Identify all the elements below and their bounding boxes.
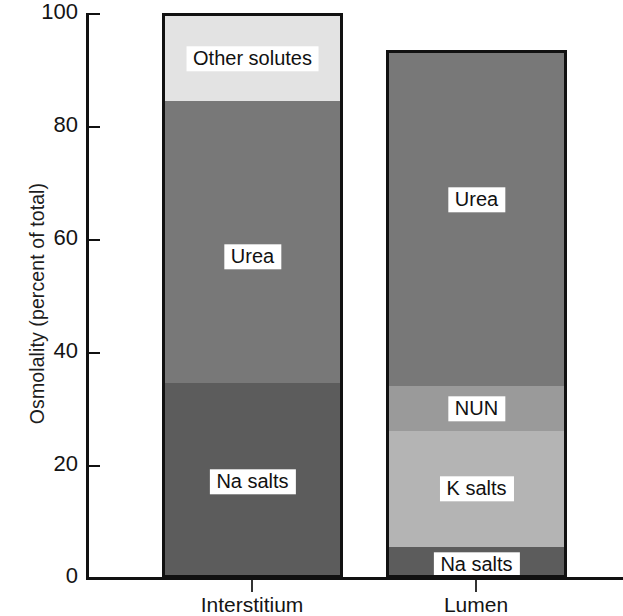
segment-label-urea-lumen: Urea	[448, 187, 505, 212]
bar-interstitium[interactable]: Other solutes Urea Na salts	[162, 13, 343, 578]
x-axis-label-lumen: Lumen	[376, 594, 576, 615]
segment-na-salts-interstitium[interactable]: Na salts	[165, 383, 340, 578]
y-tick-label-0: 0	[22, 565, 78, 587]
x-axis-label-interstitium: Interstitium	[152, 594, 352, 615]
y-tick-label-80: 80	[22, 114, 78, 136]
segment-label-other-solutes: Other solutes	[186, 46, 319, 71]
y-tick-20	[89, 465, 100, 467]
x-tick-interstitium	[251, 580, 253, 592]
segment-nun[interactable]: NUN	[389, 386, 564, 431]
y-axis-line	[86, 13, 89, 579]
segment-k-salts[interactable]: K salts	[389, 431, 564, 547]
segment-label-urea-interstitium: Urea	[224, 244, 281, 269]
y-tick-label-20: 20	[22, 453, 78, 475]
y-tick-label-100: 100	[22, 1, 78, 23]
segment-label-na-salts-lumen: Na salts	[433, 552, 519, 577]
y-tick-80	[89, 126, 100, 128]
bar-lumen[interactable]: Urea NUN K salts Na salts	[386, 50, 567, 578]
segment-label-na-salts-interstitium: Na salts	[209, 469, 295, 494]
x-tick-lumen	[475, 580, 477, 592]
segment-label-k-salts: K salts	[439, 476, 513, 501]
segment-na-salts-lumen[interactable]: Na salts	[389, 547, 564, 578]
segment-urea-interstitium[interactable]: Urea	[165, 101, 340, 383]
y-tick-100	[89, 13, 100, 15]
y-tick-label-60: 60	[22, 227, 78, 249]
segment-label-nun: NUN	[448, 396, 505, 421]
segment-urea-lumen[interactable]: Urea	[389, 53, 564, 386]
segment-other-solutes[interactable]: Other solutes	[165, 16, 340, 101]
y-tick-40	[89, 352, 100, 354]
y-tick-label-40: 40	[22, 340, 78, 362]
y-tick-60	[89, 239, 100, 241]
